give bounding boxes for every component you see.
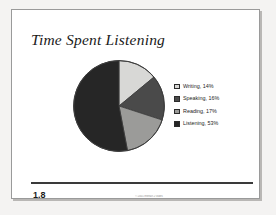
page-number: 1.8 xyxy=(33,190,46,200)
legend-swatch-icon xyxy=(174,121,180,127)
pie-svg xyxy=(67,54,171,158)
slide-page: Time Spent Listening Writing, 14%Speakin… xyxy=(11,9,260,199)
chart-legend: Writing, 14%Speaking, 16%Reading, 17%Lis… xyxy=(174,81,256,131)
legend-swatch-icon xyxy=(174,109,180,115)
legend-item-writing: Writing, 14% xyxy=(174,81,256,92)
pie-chart: Writing, 14%Speaking, 16%Reading, 17%Lis… xyxy=(67,54,257,166)
legend-item-listening: Listening, 53% xyxy=(174,119,256,130)
legend-item-reading: Reading, 17% xyxy=(174,106,256,117)
page-title: Time Spent Listening xyxy=(31,31,165,49)
pie-graphic xyxy=(67,54,171,158)
legend-item-label: Listening, 53% xyxy=(183,121,218,126)
legend-swatch-icon xyxy=(174,84,180,90)
legend-item-speaking: Speaking, 16% xyxy=(174,94,256,105)
legend-item-label: Writing, 14% xyxy=(183,84,213,89)
legend-item-label: Speaking, 16% xyxy=(183,96,219,101)
footer-note: © 2001 Interact 2 Gates xyxy=(118,195,180,198)
legend-item-label: Reading, 17% xyxy=(183,109,217,114)
footer-divider xyxy=(31,182,253,184)
legend-swatch-icon xyxy=(174,96,180,102)
slide-root: Time Spent Listening Writing, 14%Speakin… xyxy=(0,0,276,215)
